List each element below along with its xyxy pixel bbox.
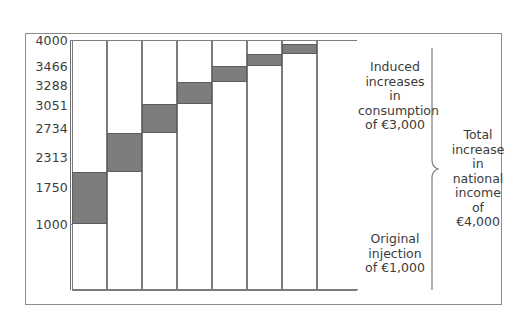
y-tick-1000: 1000 <box>8 219 68 231</box>
bar-body-6 <box>247 54 282 290</box>
bar-columns <box>72 40 357 290</box>
bar-segment-3 <box>142 104 177 133</box>
y-axis-labels: 4000 3466 3288 3051 2734 2313 1750 1000 <box>0 0 68 317</box>
bar-column-2 <box>107 40 142 290</box>
bar-body-5 <box>212 66 247 290</box>
y-tick-2313: 2313 <box>8 152 68 164</box>
chart-bottom-line <box>72 290 357 291</box>
bar-column-gutter <box>317 40 357 290</box>
annotation-total-line-7: €4,000 <box>447 215 509 230</box>
bar-segment-2 <box>107 133 142 172</box>
bar-column-4 <box>177 40 212 290</box>
annotation-total-line-1: Total <box>447 128 509 143</box>
bar-column-7 <box>282 40 317 290</box>
bar-body-gutter <box>317 224 358 290</box>
annotation-induced-line-4: of €3,000 <box>358 118 432 133</box>
annotation-induced-line-2: increases in <box>358 75 432 104</box>
bar-segment-5 <box>212 66 247 82</box>
annotation-total-line-2: increase <box>447 143 509 158</box>
annotation-total-increase: Total increase in national income of €4,… <box>447 128 509 230</box>
bar-body-7 <box>282 44 317 290</box>
annotation-original-line-3: of €1,000 <box>358 261 432 276</box>
bar-column-1 <box>72 40 107 290</box>
bar-column-3 <box>142 40 177 290</box>
annotation-original-injection: Original injection of €1,000 <box>358 232 432 276</box>
bar-column-5 <box>212 40 247 290</box>
bar-segment-6 <box>247 54 282 66</box>
y-tick-1750: 1750 <box>8 182 68 194</box>
bar-column-6 <box>247 40 282 290</box>
bar-segment-4 <box>177 82 212 104</box>
annotation-total-line-6: of <box>447 201 509 216</box>
annotation-total-line-4: national <box>447 172 509 187</box>
annotation-original-line-2: injection <box>358 247 432 262</box>
y-axis-spine <box>70 40 71 290</box>
y-tick-4000: 4000 <box>8 35 68 47</box>
annotation-total-line-3: in <box>447 157 509 172</box>
y-tick-3466: 3466 <box>8 61 68 73</box>
y-tick-3288: 3288 <box>8 80 68 92</box>
bar-body-4 <box>177 82 212 290</box>
bar-segment-7 <box>282 44 317 54</box>
plot-area <box>72 40 357 290</box>
annotation-induced-line-3: consumption <box>358 104 432 119</box>
annotation-induced-consumption: Induced increases in consumption of €3,0… <box>358 60 432 133</box>
multiplier-effect-chart-figure: 4000 3466 3288 3051 2734 2313 1750 1000 <box>0 0 530 317</box>
brace-icon <box>430 48 446 290</box>
annotation-induced-line-1: Induced <box>358 60 432 75</box>
annotation-total-line-5: income <box>447 186 509 201</box>
bar-segment-1 <box>72 172 107 224</box>
y-tick-2734: 2734 <box>8 123 68 135</box>
annotation-original-line-1: Original <box>358 232 432 247</box>
y-tick-3051: 3051 <box>8 100 68 112</box>
